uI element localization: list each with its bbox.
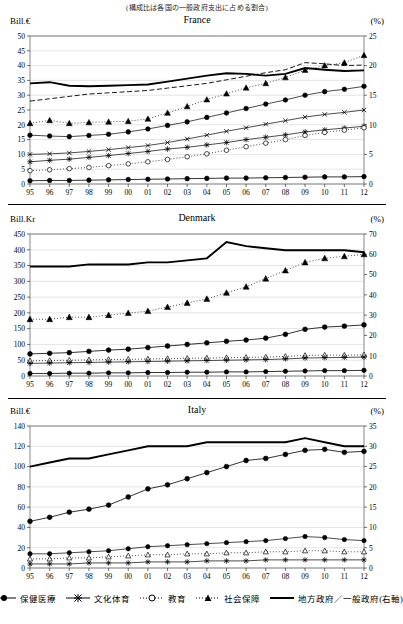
svg-text:09: 09 xyxy=(301,380,309,389)
svg-text:20: 20 xyxy=(369,61,377,70)
svg-text:15: 15 xyxy=(369,91,377,100)
svg-text:07: 07 xyxy=(262,188,270,197)
svg-text:04: 04 xyxy=(203,572,211,581)
svg-text:50: 50 xyxy=(18,32,26,41)
svg-text:07: 07 xyxy=(262,380,270,389)
svg-text:0: 0 xyxy=(369,180,373,189)
panel-france: France Bill.€ (%) 0510152025303540455005… xyxy=(0,14,394,204)
svg-text:30: 30 xyxy=(369,442,377,451)
svg-text:60: 60 xyxy=(18,503,26,512)
svg-text:400: 400 xyxy=(14,246,26,255)
svg-text:06: 06 xyxy=(242,188,250,197)
svg-text:03: 03 xyxy=(183,380,191,389)
panel-title-italy: Italy xyxy=(0,404,394,415)
svg-text:97: 97 xyxy=(66,572,74,581)
svg-text:70: 70 xyxy=(369,230,377,239)
svg-text:11: 11 xyxy=(341,572,348,581)
svg-text:10: 10 xyxy=(321,188,329,197)
svg-text:20: 20 xyxy=(369,331,377,340)
legend-label-social: 社会保障 xyxy=(224,592,260,604)
svg-text:30: 30 xyxy=(369,311,377,320)
svg-text:10: 10 xyxy=(18,150,26,159)
svg-text:00: 00 xyxy=(124,380,132,389)
legend-label-education: 教育 xyxy=(168,592,186,604)
svg-text:09: 09 xyxy=(301,572,309,581)
legend-item-education: 教育 xyxy=(139,592,186,604)
y-axis-label-left-italy: Bill.€ xyxy=(10,406,30,416)
svg-text:200: 200 xyxy=(14,309,26,318)
svg-text:25: 25 xyxy=(18,106,26,115)
svg-text:20: 20 xyxy=(369,483,377,492)
svg-text:97: 97 xyxy=(66,380,74,389)
legend-label-culture: 文化体育 xyxy=(94,592,130,604)
svg-text:12: 12 xyxy=(360,380,368,389)
svg-text:09: 09 xyxy=(301,188,309,197)
legend-symbol-social xyxy=(195,593,221,603)
svg-text:20: 20 xyxy=(18,544,26,553)
svg-text:11: 11 xyxy=(341,380,348,389)
svg-text:01: 01 xyxy=(144,188,152,197)
divider-1 xyxy=(8,204,386,205)
legend-item-culture: 文化体育 xyxy=(65,592,130,604)
svg-text:00: 00 xyxy=(124,572,132,581)
y-axis-label-right-denmark: (%) xyxy=(371,214,385,224)
svg-text:06: 06 xyxy=(242,572,250,581)
svg-text:35: 35 xyxy=(18,76,26,85)
svg-text:80: 80 xyxy=(18,483,26,492)
svg-text:450: 450 xyxy=(14,230,26,239)
svg-text:12: 12 xyxy=(360,572,368,581)
svg-text:98: 98 xyxy=(85,572,93,581)
svg-text:50: 50 xyxy=(18,356,26,365)
y-axis-label-right-france: (%) xyxy=(371,16,385,26)
svg-text:20: 20 xyxy=(18,121,26,130)
svg-text:01: 01 xyxy=(144,380,152,389)
plot-denmark: 0501001502002503003504004500102030405060… xyxy=(0,228,394,398)
svg-text:15: 15 xyxy=(18,135,26,144)
svg-text:50: 50 xyxy=(369,270,377,279)
svg-text:96: 96 xyxy=(46,572,54,581)
svg-text:95: 95 xyxy=(26,188,34,197)
svg-text:150: 150 xyxy=(14,324,26,333)
svg-text:08: 08 xyxy=(282,188,290,197)
panel-italy: Italy Bill.€ (%) 02040608010012014005101… xyxy=(0,404,394,589)
svg-text:30: 30 xyxy=(18,91,26,100)
svg-text:03: 03 xyxy=(183,188,191,197)
svg-text:02: 02 xyxy=(164,380,172,389)
svg-text:02: 02 xyxy=(164,188,172,197)
svg-text:01: 01 xyxy=(144,572,152,581)
svg-text:10: 10 xyxy=(369,352,377,361)
svg-text:00: 00 xyxy=(124,188,132,197)
chart-legend: 保健医療 文化体育 教育 社会保障 地方政府／一般政府(右軸) xyxy=(0,592,394,604)
svg-text:5: 5 xyxy=(21,165,25,174)
svg-text:40: 40 xyxy=(18,61,26,70)
panel-title-france: France xyxy=(0,14,394,25)
svg-text:0: 0 xyxy=(21,564,25,573)
svg-text:97: 97 xyxy=(66,188,74,197)
svg-text:99: 99 xyxy=(105,572,113,581)
panel-denmark: Denmark Bill.Kr (%) 05010015020025030035… xyxy=(0,212,394,397)
svg-text:02: 02 xyxy=(164,572,172,581)
svg-text:07: 07 xyxy=(262,572,270,581)
legend-item-localshare: 地方政府／一般政府(右軸) xyxy=(269,592,403,604)
panel-title-denmark: Denmark xyxy=(0,212,394,223)
svg-text:5: 5 xyxy=(369,544,373,553)
svg-text:0: 0 xyxy=(369,564,373,573)
legend-item-social: 社会保障 xyxy=(195,592,260,604)
svg-text:140: 140 xyxy=(14,422,26,431)
svg-text:10: 10 xyxy=(369,121,377,130)
plot-italy: 0204060801001201400510152025303595969798… xyxy=(0,420,394,590)
svg-text:60: 60 xyxy=(369,250,377,259)
svg-text:25: 25 xyxy=(369,32,377,41)
svg-text:04: 04 xyxy=(203,380,211,389)
svg-text:96: 96 xyxy=(46,380,54,389)
legend-label-health: 保健医療 xyxy=(20,592,56,604)
legend-symbol-culture xyxy=(65,593,91,603)
svg-text:100: 100 xyxy=(14,462,26,471)
svg-text:99: 99 xyxy=(105,380,113,389)
svg-text:0: 0 xyxy=(21,372,25,381)
svg-text:10: 10 xyxy=(321,572,329,581)
svg-text:95: 95 xyxy=(26,572,34,581)
legend-symbol-health xyxy=(0,593,17,603)
svg-text:25: 25 xyxy=(369,462,377,471)
svg-text:10: 10 xyxy=(369,523,377,532)
